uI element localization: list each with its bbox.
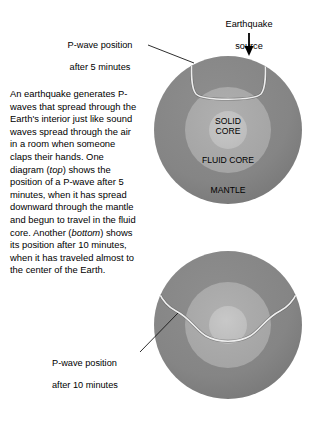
top-solid-core-label-line2: CORE <box>216 126 241 136</box>
earthquake-source-label-line2: source <box>209 41 289 52</box>
paragraph-em-top: top <box>50 164 63 175</box>
pwave-10min-label-line1: P-wave position <box>52 358 152 369</box>
paragraph-em-bottom: bottom <box>72 227 101 238</box>
paragraph-part1: An earthquake generates P-waves that spr… <box>10 88 136 175</box>
top-mantle-label: MANTLE <box>211 185 246 195</box>
bottom-earth-cross-section <box>152 251 304 399</box>
pwave-5min-label: P-wave position after 5 minutes <box>52 29 148 84</box>
pwave-5min-label-line1: P-wave position <box>52 40 148 51</box>
earthquake-source-label: Earthquake source <box>209 8 289 63</box>
pwave-10min-label-line2: after 10 minutes <box>52 380 152 391</box>
pwave-5min-label-line2: after 5 minutes <box>52 62 148 73</box>
top-fluid-core-label: FLUID CORE <box>202 155 254 165</box>
pwave-5min-leader-line <box>148 45 194 63</box>
top-earth-cross-section: SOLID CORE FLUID CORE MANTLE <box>154 56 302 204</box>
figure-canvas: SOLID CORE FLUID CORE MANTLE <box>0 0 316 428</box>
earthquake-source-label-line1: Earthquake <box>209 19 289 30</box>
explanatory-paragraph: An earthquake generates P-waves that spr… <box>10 88 138 277</box>
top-solid-core-label-line1: SOLID <box>215 116 241 126</box>
pwave-10min-label: P-wave position after 10 minutes <box>52 347 152 402</box>
